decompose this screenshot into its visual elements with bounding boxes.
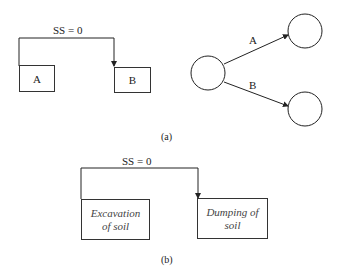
activity-box-dumping: Dumping of soil	[197, 198, 268, 239]
node-a-end	[288, 14, 322, 48]
caption-b: (b)	[161, 254, 173, 265]
activity-box-b-label: B	[129, 74, 136, 86]
dumping-line1: Dumping of	[206, 206, 258, 219]
caption-a: (a)	[161, 131, 172, 142]
activity-box-a: A	[19, 65, 55, 92]
network-a	[191, 14, 322, 126]
ss-link-b	[81, 168, 198, 199]
activity-box-a-label: A	[33, 73, 41, 85]
activity-box-b: B	[114, 67, 151, 93]
ss-label-b: SS = 0	[122, 155, 151, 167]
dumping-line2: soil	[206, 219, 258, 232]
ss-label-a: SS = 0	[53, 24, 82, 36]
arrow-b-label: B	[249, 79, 256, 91]
arrow-a-label: A	[249, 34, 257, 46]
excavation-line1: Excavation	[91, 207, 140, 220]
node-start	[191, 56, 225, 90]
node-b-end	[288, 92, 322, 126]
excavation-line2: of soil	[91, 220, 140, 233]
ss-link-a	[19, 38, 114, 66]
activity-box-excavation: Excavation of soil	[81, 199, 150, 240]
